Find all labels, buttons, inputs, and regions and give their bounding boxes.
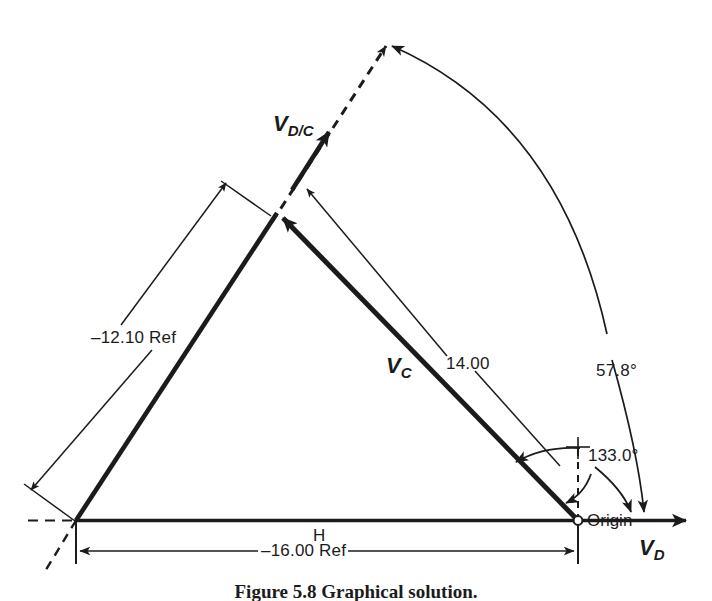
dim-1210-extension-upper <box>221 181 271 216</box>
dimension-14-00-group <box>307 189 560 466</box>
dim-1210-line-lower <box>31 350 152 490</box>
origin-label: Origin <box>587 512 632 529</box>
dim-1400-line-lower <box>475 371 560 466</box>
vector-vd-label-base: V <box>639 535 654 560</box>
angle-133-0-label: 133.0° <box>588 447 639 464</box>
vector-vdc-midarrow <box>292 132 329 190</box>
vector-vc-line <box>283 218 578 521</box>
figure-container: VD/C VC VD –12.10 Ref 14.00 57.8° 133.0°… <box>0 0 712 601</box>
origin-marker-group <box>574 516 583 525</box>
dimension-minus-16-00-label: –16.00 Ref <box>261 542 346 559</box>
angle-133-arc <box>516 448 580 462</box>
vector-vc-group <box>283 218 578 521</box>
resultant-left-side-group <box>76 213 277 521</box>
origin-point-icon <box>574 516 583 525</box>
lower-left-dashed-line <box>44 521 76 574</box>
dimension-minus-12-10-label: –12.10 Ref <box>91 329 176 346</box>
vector-vd-label: VD <box>639 537 665 562</box>
dim-1400-line-upper <box>307 189 447 356</box>
angle-578-inner-arc <box>595 467 631 512</box>
vector-vdc-label: VD/C <box>273 113 314 138</box>
vector-vdc-label-base: V <box>273 111 288 136</box>
figure-caption: Figure 5.8 Graphical solution. <box>0 581 712 601</box>
vector-vc-label: VC <box>386 355 412 380</box>
dimension-minus-12-10-group <box>24 181 271 521</box>
dimension-14-00-label: 14.00 <box>446 355 490 372</box>
vector-vc-label-base: V <box>386 353 401 378</box>
resultant-left-side-line <box>76 213 277 521</box>
angle-57-8-label: 57.8° <box>596 362 637 379</box>
construction-dashed-group <box>44 521 76 574</box>
angle-57-8-group <box>392 46 644 512</box>
vector-vc-label-sub: C <box>401 364 412 381</box>
angle-578-arc-upper <box>392 46 607 334</box>
vector-vdc-label-sub: D/C <box>288 122 314 139</box>
vector-vd-label-sub: D <box>654 546 665 563</box>
dim-1210-line-upper <box>121 183 226 325</box>
